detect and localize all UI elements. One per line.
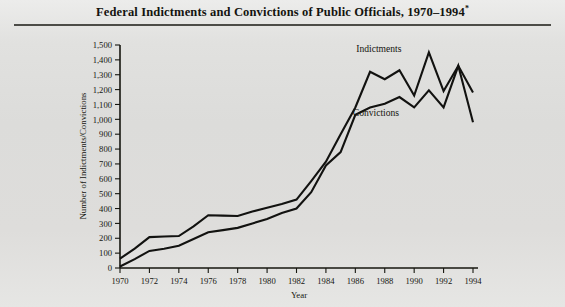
x-tick-label: 1988: [376, 276, 393, 286]
x-tick-label: 1984: [317, 276, 335, 286]
y-tick-label: 100: [99, 248, 112, 258]
title-divider: [14, 24, 551, 26]
x-tick-label: 1978: [229, 276, 246, 286]
y-axis-title: Number of Indictments/Convictions: [78, 92, 88, 220]
annotation-indictments: Indictments: [356, 43, 402, 54]
page-title: Federal Indictments and Convictions of P…: [0, 4, 565, 20]
series-line-indictments: [120, 52, 473, 258]
x-tick-label: 1974: [170, 276, 188, 286]
x-tick-label: 1972: [141, 276, 158, 286]
y-tick-label: 0: [108, 263, 112, 273]
figure-title-text: Federal Indictments and Convictions of P…: [96, 5, 465, 19]
y-tick-label: 500: [99, 189, 112, 199]
x-tick-label: 1994: [464, 276, 482, 286]
x-tick-label: 1976: [200, 276, 218, 286]
x-axis-tick-labels: 1970197219741976197819801982198419861988…: [111, 276, 482, 286]
y-tick-label: 400: [99, 204, 112, 214]
chart-plot-area: 01002003004005006007008009001,0001,1001,…: [0, 30, 565, 307]
x-tick-label: 1980: [258, 276, 275, 286]
figure-container: Federal Indictments and Convictions of P…: [0, 0, 565, 307]
y-tick-label: 1,100: [93, 100, 112, 110]
x-axis: 1970197219741976197819801982198419861988…: [111, 268, 482, 300]
data-series-group: [120, 52, 473, 266]
x-axis-title: Year: [291, 290, 307, 300]
line-chart: 01002003004005006007008009001,0001,1001,…: [0, 30, 565, 307]
x-tick-label: 1992: [435, 276, 452, 286]
annotation-convictions: Convictions: [353, 107, 400, 118]
y-tick-label: 1,000: [93, 115, 112, 125]
x-tick-label: 1990: [406, 276, 423, 286]
x-tick-label: 1986: [347, 276, 365, 286]
y-axis-tick-labels: 01002003004005006007008009001,0001,1001,…: [93, 40, 112, 273]
y-tick-label: 600: [99, 174, 112, 184]
y-tick-label: 700: [99, 159, 112, 169]
footnote-marker: *: [465, 4, 469, 13]
y-tick-label: 1,400: [93, 55, 112, 65]
y-tick-label: 300: [99, 219, 112, 229]
y-axis: 01002003004005006007008009001,0001,1001,…: [78, 40, 120, 273]
y-tick-label: 800: [99, 144, 112, 154]
series-annotations: IndictmentsConvictions: [353, 43, 402, 118]
y-tick-label: 900: [99, 129, 112, 139]
y-tick-label: 1,300: [93, 70, 112, 80]
y-tick-label: 200: [99, 233, 112, 243]
x-tick-label: 1982: [288, 276, 305, 286]
y-tick-label: 1,200: [93, 85, 112, 95]
x-tick-label: 1970: [111, 276, 128, 286]
y-tick-label: 1,500: [93, 40, 112, 50]
